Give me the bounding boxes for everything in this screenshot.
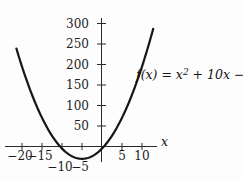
y-tick-label: 200 — [66, 58, 89, 72]
x-tick-label: −10 — [47, 160, 72, 174]
tick-labels: −20−15−10−551050100150200250300 — [7, 17, 149, 174]
y-tick-label: 100 — [66, 99, 89, 113]
y-tick-label: 150 — [66, 78, 89, 92]
y-tick-label: 300 — [66, 17, 89, 31]
x-tick-label: 5 — [118, 149, 126, 163]
x-axis-label: x — [161, 134, 168, 149]
x-tick-label: −5 — [71, 160, 89, 174]
quadratic-function-plot: −20−15−10−551050100150200250300 f(x) = x… — [0, 0, 243, 181]
function-equation-pre: f(x) = x — [135, 67, 183, 82]
y-tick-label: 50 — [74, 119, 89, 133]
y-tick-label: 250 — [66, 37, 89, 51]
function-equation-label: f(x) = x2 + 10x − 5 — [135, 67, 243, 83]
x-tick-label: 10 — [134, 149, 149, 163]
function-equation-post: + 10x − 5 — [189, 67, 243, 82]
quadratic-plot-figure: −20−15−10−551050100150200250300 f(x) = x… — [0, 0, 243, 181]
